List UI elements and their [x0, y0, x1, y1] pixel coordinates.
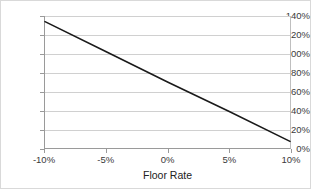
x-tick-label: 10% — [266, 154, 311, 165]
x-tick-mark — [168, 149, 169, 153]
x-tick-mark — [106, 149, 107, 153]
series-line-0 — [45, 22, 290, 142]
chart-container: 0%20%40%60%80%100%120%140% -10%-5%0%5%10… — [0, 0, 311, 189]
x-tick-mark — [229, 149, 230, 153]
x-tick-label: -5% — [81, 154, 131, 165]
x-tick-label: 5% — [204, 154, 254, 165]
x-axis-title: Floor Rate — [44, 169, 291, 181]
series-line-chart — [45, 16, 290, 148]
x-tick-mark — [291, 149, 292, 153]
x-tick-label: 0% — [143, 154, 193, 165]
x-tick-mark — [44, 149, 45, 153]
plot-area — [44, 16, 291, 149]
x-tick-label: -10% — [19, 154, 69, 165]
